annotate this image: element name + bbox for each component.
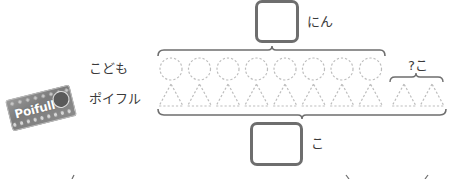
circle-shape	[274, 58, 296, 80]
triangle-shape	[245, 84, 269, 106]
circle-shape	[360, 58, 382, 80]
brace-unknown-extra	[390, 73, 443, 82]
triangle-shape	[330, 84, 354, 106]
brace-bottom-poifull	[158, 109, 446, 119]
poifull-triangles	[159, 84, 444, 106]
triangle-shape	[159, 84, 183, 106]
circle-shape	[303, 58, 325, 80]
circle-shape	[246, 58, 268, 80]
triangle-shape	[216, 84, 240, 106]
circle-shape	[217, 58, 239, 80]
brace-top-children	[158, 46, 385, 56]
triangle-shape	[392, 84, 416, 106]
cutoff-mark	[72, 175, 74, 179]
unit-label-pieces: こ	[311, 137, 324, 150]
triangle-shape	[420, 84, 444, 106]
triangle-shape	[359, 84, 383, 106]
children-circles	[160, 58, 382, 80]
answer-box-poifull-count[interactable]	[250, 122, 303, 166]
cutoff-mark	[346, 175, 349, 179]
tape-diagram	[0, 0, 449, 179]
circle-shape	[189, 58, 211, 80]
circle-shape	[160, 58, 182, 80]
triangle-shape	[188, 84, 212, 106]
cutoff-mark	[425, 175, 428, 179]
triangle-shape	[302, 84, 326, 106]
circle-shape	[331, 58, 353, 80]
triangle-shape	[273, 84, 297, 106]
